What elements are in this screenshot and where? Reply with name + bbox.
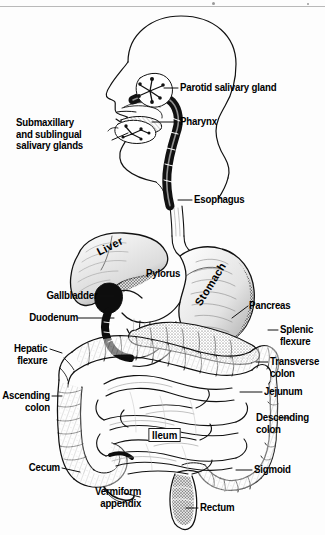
- label-ileum: Ileum: [148, 428, 181, 442]
- label-splenic-flexure: Splenic flexure: [280, 324, 313, 347]
- label-hepatic-flexure: Hepatic flexure: [14, 343, 48, 366]
- label-gallbladder: Gallbladder: [47, 290, 98, 302]
- label-ascending-colon: Ascending colon: [2, 390, 50, 413]
- digestive-system-figure: Parotid salivary gland Pharynx Submaxill…: [0, 0, 325, 535]
- label-cecum: Cecum: [29, 462, 60, 474]
- label-rectum: Rectum: [200, 502, 234, 514]
- label-descending-colon: Descending colon: [256, 412, 309, 435]
- label-submaxillary-sublingual-glands: Submaxillary and sublingual salivary gla…: [16, 117, 83, 152]
- label-esophagus: Esophagus: [194, 194, 244, 206]
- label-transverse-colon: Transverse colon: [270, 356, 319, 379]
- label-jejunum: Jejunum: [264, 386, 302, 398]
- label-pharynx: Pharynx: [180, 116, 217, 128]
- label-parotid-salivary-gland: Parotid salivary gland: [180, 82, 276, 94]
- label-pancreas: Pancreas: [249, 300, 291, 312]
- label-duodenum: Duodenum: [29, 312, 78, 324]
- label-vermiform-appendix: Vermiform appendix: [95, 486, 141, 509]
- label-sigmoid: Sigmoid: [254, 464, 291, 476]
- label-pylorus: Pylorus: [146, 268, 180, 280]
